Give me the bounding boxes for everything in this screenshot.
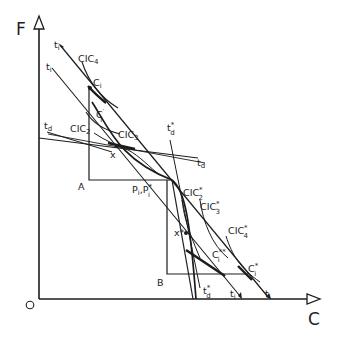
x-label: x [110,149,116,160]
x-axis-label: C [308,309,320,329]
cic2-label: CIC2 [70,123,91,136]
td-line [39,138,198,158]
point-a-label: A [78,181,85,192]
x-axis [39,294,320,304]
ti-top-label: ti [54,39,60,52]
td-star-top-label: t*d [167,121,175,137]
point-b-label: B [157,277,164,288]
y-axis [34,16,44,299]
y-axis-arrow-icon [34,16,44,29]
x-axis-arrow-icon [307,294,320,304]
origin-label [26,301,34,309]
x-star-label: x* [174,227,185,238]
cic2-star-label: CIC*2 [183,186,203,202]
ti-mid-label: ti [46,61,52,74]
diagram-svg: F C ti ti CIC4 Ci C′i td [0,0,338,343]
point-ci [88,86,92,90]
td-left-label: td [44,120,52,133]
td-star-line [170,140,200,288]
cic4-star-label: CIC*4 [228,224,249,240]
production-frontier [92,102,196,299]
ci-label: Ci [93,77,102,90]
cic4-label: CIC4 [78,53,99,66]
trade-diagram: F C ti ti CIC4 Ci C′i td [0,0,338,343]
td-right-label: td [197,157,205,170]
td-star-bottom-label: t*d [203,284,211,300]
cic3-label: CIC3 [118,129,139,142]
point-x [115,144,119,148]
ti-middle-arrow-icon [238,292,242,299]
pi-label: Pi,P*i [132,183,152,199]
y-axis-label: F [16,19,26,39]
ci-starstar-label: C**i [212,248,226,264]
point-x-star [184,231,188,235]
